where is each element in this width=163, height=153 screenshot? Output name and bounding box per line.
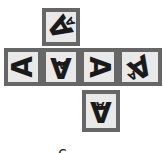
option-label: c xyxy=(58,143,67,153)
face-center-right: A xyxy=(80,48,118,86)
letter-a-small: A xyxy=(58,59,67,70)
face-left: A xyxy=(4,48,42,86)
face-top: A A xyxy=(42,8,80,46)
letter-a-large: A xyxy=(85,56,113,78)
face-bottom: A A xyxy=(82,90,120,132)
face-right: A A xyxy=(118,48,162,86)
letter-a-large: A xyxy=(9,56,37,78)
face-center-left: A A xyxy=(42,48,80,86)
letter-a-small: A xyxy=(96,100,105,111)
